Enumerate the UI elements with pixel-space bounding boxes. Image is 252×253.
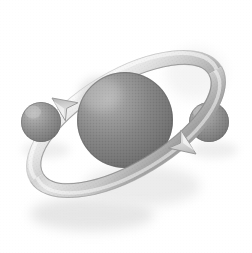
- global-halftone-grain: [0, 0, 252, 253]
- atom-illustration: Grayscale illustration of an atom: a lar…: [0, 0, 252, 253]
- atom-illustration-svg: [0, 0, 252, 253]
